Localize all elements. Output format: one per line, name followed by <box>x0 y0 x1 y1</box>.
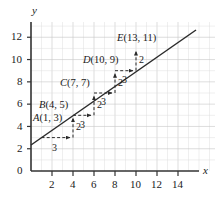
y-tick-2: 2 <box>17 143 23 154</box>
point-c-coords: (7, 7) <box>67 77 90 88</box>
y-tick-6: 6 <box>17 98 23 109</box>
x-tick-12: 12 <box>151 179 162 190</box>
step-run-label-d-e: 3 <box>122 75 127 85</box>
x-tick-2: 2 <box>49 179 55 190</box>
x-tick-4: 4 <box>70 179 76 190</box>
point-b-coords: (4, 5) <box>45 99 68 110</box>
coordinate-plane-svg <box>0 0 217 199</box>
point-label-d: D(10, 9) <box>83 55 119 66</box>
x-axis-label: x <box>203 165 208 176</box>
point-label-a: A(1, 3) <box>33 113 62 124</box>
step-run-label-b-c: 3 <box>80 120 85 130</box>
y-axis-label: y <box>32 5 37 16</box>
graph-figure: y x 0 2 4 6 8 10 12 2 4 6 8 10 12 14 A(1… <box>0 0 217 199</box>
point-e-coords: (13, 11) <box>123 32 156 43</box>
step-run-label-a-b: 3 <box>52 143 57 153</box>
point-label-c: C(7, 7) <box>60 78 90 89</box>
step-rise-label-d-e: 2 <box>139 55 144 65</box>
point-d-letter: D <box>83 54 91 65</box>
step-run-label-c-d: 3 <box>101 97 106 107</box>
y-tick-8: 8 <box>17 76 23 87</box>
point-label-e: E(13, 11) <box>117 33 156 44</box>
y-tick-0: 0 <box>17 165 23 176</box>
point-a-coords: (1, 3) <box>39 112 62 123</box>
point-label-b: B(4, 5) <box>39 100 68 111</box>
point-d-coords: (10, 9) <box>91 54 119 65</box>
y-tick-12: 12 <box>11 31 22 42</box>
x-tick-8: 8 <box>112 179 118 190</box>
point-c-letter: C <box>60 77 67 88</box>
y-tick-4: 4 <box>17 121 23 132</box>
x-tick-14: 14 <box>172 179 183 190</box>
y-tick-10: 10 <box>11 54 22 65</box>
x-tick-10: 10 <box>130 179 141 190</box>
x-tick-6: 6 <box>91 179 97 190</box>
